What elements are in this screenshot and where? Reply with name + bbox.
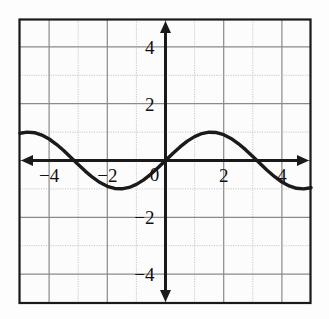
x-tick-label-2: 2 xyxy=(219,165,229,186)
x-tick-label-4: 4 xyxy=(277,165,287,186)
x-tick-label--4: −4 xyxy=(39,165,60,186)
y-tick-label-2: 2 xyxy=(145,94,155,115)
graph-figure: −4−202442−2−4 xyxy=(0,0,329,319)
coordinate-plane: −4−202442−2−4 xyxy=(0,0,329,319)
x-tick-label-0: 0 xyxy=(150,164,160,185)
y-tick-label--4: −4 xyxy=(134,264,155,285)
y-tick-label--2: −2 xyxy=(134,207,154,228)
x-tick-label--2: −2 xyxy=(97,165,117,186)
y-tick-label-4: 4 xyxy=(145,37,155,58)
